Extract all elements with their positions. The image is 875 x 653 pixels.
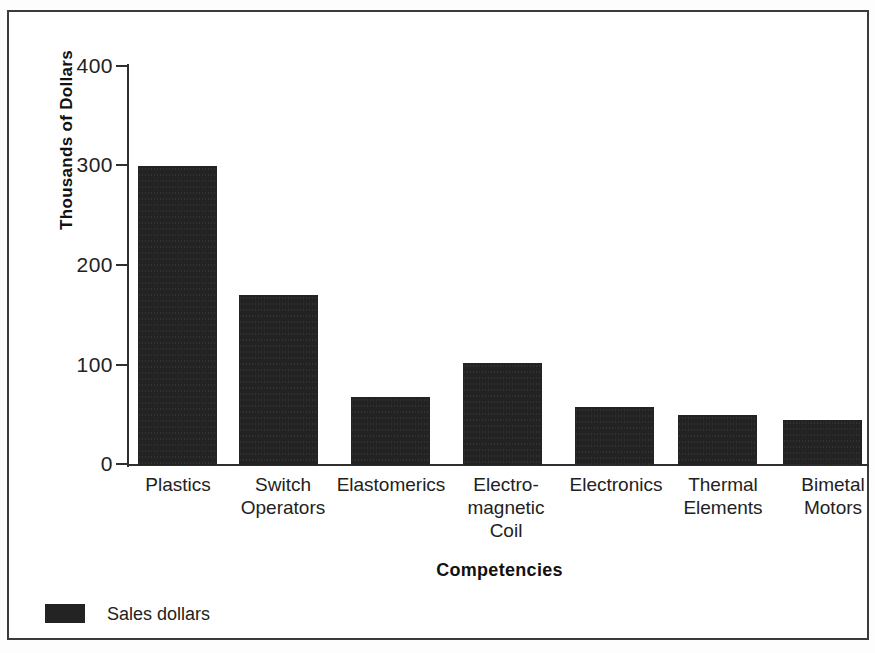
chart-legend: Sales dollars	[45, 604, 210, 623]
plot-area	[127, 66, 872, 465]
bar-electronics	[575, 407, 654, 465]
bar-slot-bimetal-motors	[772, 66, 873, 465]
bar-slot-electromagnetic-coil	[452, 66, 553, 465]
x-label-elastomerics: Elastomerics	[330, 473, 452, 496]
chart-page: 400 300 200 100 0 Thousands of Dollars	[0, 0, 875, 653]
bar-electromagnetic-coil	[463, 363, 542, 465]
bar-slot-thermal-elements	[667, 66, 768, 465]
y-tick-label-100: 100	[9, 354, 113, 375]
x-label-thermal-elements: ThermalElements	[662, 473, 784, 519]
x-label-electromagnetic-coil: Electro-magneticCoil	[445, 473, 567, 542]
bar-slot-switch-operators	[228, 66, 329, 465]
chart-frame-border: 400 300 200 100 0 Thousands of Dollars	[7, 10, 869, 640]
bar-plastics	[138, 166, 217, 465]
bar-slot-elastomerics	[340, 66, 441, 465]
x-label-bimetal-motors: BimetalMotors	[772, 473, 875, 519]
bar-bimetal-motors	[783, 420, 862, 465]
legend-swatch-sales-dollars	[45, 604, 85, 623]
x-axis-category-labels: Plastics SwitchOperators Elastomerics El…	[127, 473, 872, 553]
bar-group	[127, 66, 872, 465]
x-label-switch-operators: SwitchOperators	[222, 473, 344, 519]
y-tick-label-0: 0	[9, 453, 113, 474]
bar-slot-electronics	[564, 66, 665, 465]
bar-switch-operators	[239, 295, 318, 465]
legend-label-sales-dollars: Sales dollars	[107, 605, 210, 623]
bar-thermal-elements	[678, 415, 757, 465]
y-axis-title: Thousands of Dollars	[57, 20, 77, 260]
x-label-electronics: Electronics	[555, 473, 677, 496]
x-label-plastics: Plastics	[117, 473, 239, 496]
bar-slot-plastics	[127, 66, 228, 465]
bar-elastomerics	[351, 397, 430, 465]
x-axis-title: Competencies	[127, 560, 872, 581]
